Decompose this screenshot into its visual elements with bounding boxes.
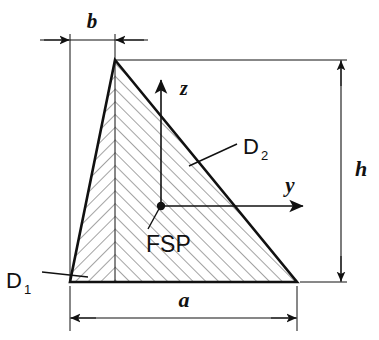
d2-label: D [243,134,259,159]
d2-label-subscript: 2 [261,148,268,163]
d2-label-group: D 2 [243,134,268,163]
dimension-label-a: a [179,287,190,312]
d1-label: D [6,268,22,293]
fsp-point [157,202,165,210]
technical-drawing-figure: b a h z y FSP [0,0,379,340]
d1-label-subscript: 1 [24,282,31,297]
d1-label-group: D 1 [6,268,31,297]
axis-label-z: z [179,77,188,99]
dimension-label-h: h [355,156,367,181]
axis-label-y: y [282,173,295,197]
dimension-label-b: b [87,9,98,33]
figure-canvas: b a h z y FSP [0,0,379,340]
d2-leader-line [189,144,237,166]
fsp-label: FSP [146,231,191,257]
